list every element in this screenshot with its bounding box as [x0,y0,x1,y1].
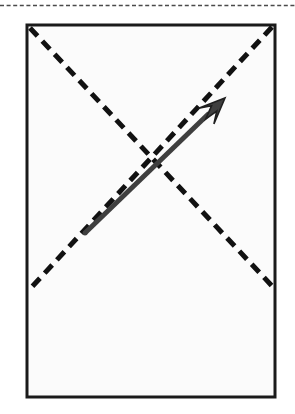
diagram-canvas [0,0,295,414]
page-outline-rectangle [27,25,275,397]
figure-root [0,0,295,414]
arrow-tail-cap [83,231,88,236]
